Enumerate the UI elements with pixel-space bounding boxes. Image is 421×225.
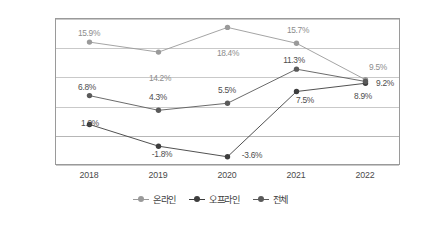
data-point-online-2019[interactable] <box>156 49 161 54</box>
data-label-online-2022: 9.5% <box>369 62 387 72</box>
data-point-offline-2021[interactable] <box>294 89 299 94</box>
data-point-total-2019[interactable] <box>156 108 161 113</box>
chart-legend: 온라인 오프라인 전체 <box>0 192 421 206</box>
data-label-total-2019: 4.3% <box>149 92 167 102</box>
legend-item-online[interactable]: 온라인 <box>133 192 176 206</box>
legend-item-offline[interactable]: 오프라인 <box>189 192 240 206</box>
data-label-total-2022: 9.2% <box>376 78 394 88</box>
data-label-offline-2020: -3.6% <box>242 150 262 160</box>
line-chart: 20.0% 15.0% 10.0% 5.0% 0.0% -5.0% 2018 2… <box>0 0 421 225</box>
data-label-online-2020: 18.4% <box>217 48 239 58</box>
data-point-online-2018[interactable] <box>87 39 92 44</box>
legend-item-total[interactable]: 전체 <box>253 192 288 206</box>
legend-marker-offline-icon <box>189 195 205 203</box>
data-point-total-2020[interactable] <box>225 101 230 106</box>
data-label-offline-2019: -1.8% <box>152 149 172 159</box>
data-label-offline-2021: 7.5% <box>296 95 314 105</box>
data-label-total-2020: 5.5% <box>218 85 236 95</box>
data-point-total-2018[interactable] <box>87 93 92 98</box>
data-label-offline-2018: 1.9% <box>81 118 99 128</box>
legend-marker-online-icon <box>133 195 149 203</box>
legend-marker-total-icon <box>253 195 269 203</box>
data-point-online-2020[interactable] <box>225 25 230 30</box>
data-point-total-2022[interactable] <box>363 79 368 84</box>
data-point-total-2021[interactable] <box>294 66 299 71</box>
legend-label-total: 전체 <box>273 192 288 206</box>
data-point-online-2021[interactable] <box>294 41 299 46</box>
data-label-online-2019: 14.2% <box>149 73 171 83</box>
legend-label-online: 온라인 <box>153 192 176 206</box>
data-label-offline-2022: 8.9% <box>354 91 372 101</box>
data-label-online-2018: 15.9% <box>78 28 100 38</box>
data-point-offline-2020[interactable] <box>225 154 230 159</box>
legend-label-offline: 오프라인 <box>209 192 240 206</box>
data-label-total-2018: 6.8% <box>78 82 96 92</box>
data-label-online-2021: 15.7% <box>287 25 309 35</box>
data-label-total-2021: 11.3% <box>283 55 305 65</box>
